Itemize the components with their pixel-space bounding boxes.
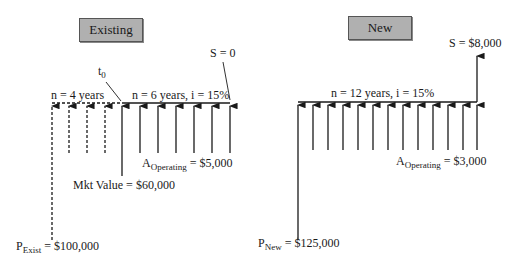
new-diagram <box>298 56 477 240</box>
existing-period1-label: n = 4 years <box>51 88 104 103</box>
new-title: New <box>368 20 393 35</box>
existing-initial-cost-label: PExist = $100,000 <box>16 239 99 255</box>
t0-pointer <box>106 82 121 101</box>
t0-label: t0 <box>98 64 106 80</box>
new-period-label: n = 12 years, i = 15% <box>331 86 434 101</box>
existing-market-value-label: Mkt Value = $60,000 <box>73 178 175 193</box>
cash-flow-diagrams <box>0 0 516 275</box>
existing-period2-label: n = 6 years, i = 15% <box>132 88 229 103</box>
new-operating-label: AOperating = $3,000 <box>396 154 486 170</box>
existing-title: Existing <box>89 22 132 37</box>
new-salvage-label: S = $8,000 <box>449 36 501 51</box>
new-title-box: New <box>348 16 412 40</box>
new-initial-cost-label: PNew = $125,000 <box>258 236 339 252</box>
existing-operating-label: AOperating = $5,000 <box>142 156 232 172</box>
existing-title-box: Existing <box>79 18 143 42</box>
existing-salvage-label: S = 0 <box>210 46 235 61</box>
